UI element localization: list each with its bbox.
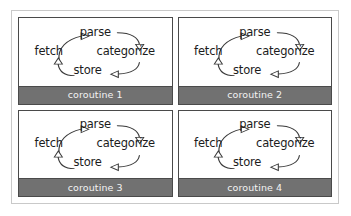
pipeline-diagram: parse fetch categorize store: [19, 18, 172, 86]
pipeline-diagram: parse fetch categorize store: [19, 111, 172, 179]
coroutine-label-bar: coroutine 1: [19, 86, 172, 104]
figure-frame: parse fetch categorize store coroutine 1: [11, 10, 339, 204]
node-fetch: fetch: [35, 46, 63, 58]
pipeline-diagram: parse fetch categorize store: [179, 111, 332, 179]
node-fetch: fetch: [35, 139, 63, 151]
arrowhead-store-to-fetch: [54, 58, 62, 64]
coroutine-label: coroutine 4: [227, 183, 282, 193]
edge-store-to-fetch: [58, 157, 74, 169]
pipeline-diagram: parse fetch categorize store: [179, 18, 332, 86]
edge-parse-to-categorize: [117, 125, 139, 137]
coroutine-panel: parse fetch categorize store coroutine 1: [18, 17, 173, 105]
arrowhead-store-to-fetch: [214, 150, 222, 156]
edge-store-to-fetch: [218, 157, 234, 169]
edge-categorize-to-store: [118, 62, 139, 74]
edge-parse-to-categorize: [277, 33, 299, 45]
coroutine-label-bar: coroutine 3: [19, 178, 172, 196]
node-fetch: fetch: [194, 46, 222, 58]
edge-categorize-to-store: [278, 62, 299, 74]
node-parse: parse: [239, 120, 270, 132]
edge-categorize-to-store: [118, 155, 139, 167]
arrowhead-store-to-fetch: [54, 150, 62, 156]
node-store: store: [74, 157, 102, 169]
coroutine-label: coroutine 1: [68, 90, 123, 100]
coroutine-label-bar: coroutine 2: [179, 86, 332, 104]
node-categorize: categorize: [97, 139, 155, 151]
node-categorize: categorize: [97, 46, 155, 58]
node-store: store: [233, 157, 261, 169]
edge-categorize-to-store: [278, 155, 299, 167]
arrowhead-categorize-to-store: [111, 163, 119, 170]
coroutine-label-bar: coroutine 4: [179, 178, 332, 196]
node-store: store: [74, 65, 102, 77]
arrowhead-categorize-to-store: [270, 163, 278, 170]
arrowhead-categorize-to-store: [270, 71, 278, 78]
node-fetch: fetch: [194, 139, 222, 151]
arrowhead-categorize-to-store: [111, 71, 119, 78]
coroutine-label: coroutine 3: [68, 183, 123, 193]
edge-store-to-fetch: [58, 64, 74, 76]
edge-parse-to-categorize: [117, 33, 139, 45]
coroutine-panel: parse fetch categorize store coroutine 2: [178, 17, 333, 105]
node-categorize: categorize: [256, 46, 314, 58]
node-categorize: categorize: [256, 139, 314, 151]
edge-store-to-fetch: [218, 64, 234, 76]
node-parse: parse: [80, 120, 111, 132]
node-parse: parse: [80, 27, 111, 39]
node-store: store: [233, 65, 261, 77]
node-parse: parse: [239, 27, 270, 39]
edge-parse-to-categorize: [277, 125, 299, 137]
coroutine-panel-grid: parse fetch categorize store coroutine 1: [18, 17, 332, 197]
coroutine-label: coroutine 2: [227, 90, 282, 100]
arrowhead-store-to-fetch: [214, 58, 222, 64]
coroutine-panel: parse fetch categorize store coroutine 4: [178, 110, 333, 198]
coroutine-panel: parse fetch categorize store coroutine 3: [18, 110, 173, 198]
